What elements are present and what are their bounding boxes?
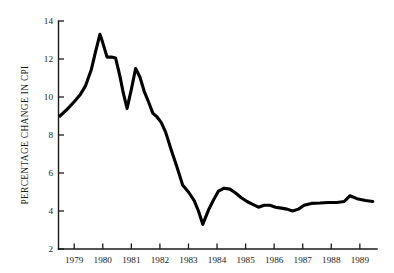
y-tick-label: 14 xyxy=(44,16,54,26)
y-tick-label: 4 xyxy=(48,206,53,216)
y-tick-label: 2 xyxy=(48,244,53,254)
cpi-line-chart: 2468101214 19791980198119821983198419851… xyxy=(0,0,394,273)
y-tick-label: 8 xyxy=(48,130,53,140)
x-tick-label: 1985 xyxy=(236,255,255,265)
x-tick-label: 1986 xyxy=(265,255,284,265)
x-tick-label: 1984 xyxy=(208,255,227,265)
chart-canvas: 2468101214 19791980198119821983198419851… xyxy=(0,0,394,273)
x-tick-label: 1988 xyxy=(322,255,341,265)
x-tick-label: 1980 xyxy=(94,255,113,265)
x-tick-label: 1983 xyxy=(179,255,198,265)
x-tick-label: 1989 xyxy=(351,255,370,265)
y-tick-label: 6 xyxy=(48,168,53,178)
y-axis-ticks xyxy=(59,21,65,249)
y-axis-title: PERCENTAGE CHANGE IN CPI xyxy=(20,65,30,204)
y-tick-label: 10 xyxy=(44,92,54,102)
x-axis-tick-labels: 1979198019811982198319841985198619871988… xyxy=(65,255,369,265)
x-tick-label: 1979 xyxy=(65,255,84,265)
y-axis-tick-labels: 2468101214 xyxy=(44,16,54,254)
x-tick-label: 1982 xyxy=(151,255,170,265)
x-tick-label: 1987 xyxy=(294,255,313,265)
x-axis-ticks xyxy=(74,244,360,250)
x-tick-label: 1981 xyxy=(122,255,141,265)
y-tick-label: 12 xyxy=(44,54,54,64)
data-series-line xyxy=(60,34,373,224)
